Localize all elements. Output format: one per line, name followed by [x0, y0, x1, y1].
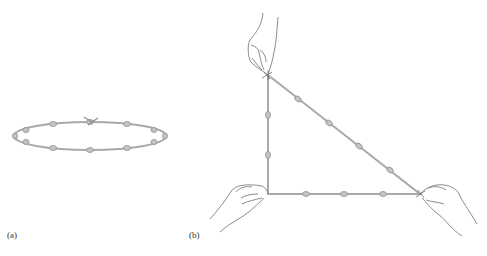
triangle-knots	[266, 95, 395, 197]
figure-canvas	[0, 0, 487, 256]
panel-label-a: (a)	[7, 230, 17, 240]
right-hand-icon	[416, 185, 477, 236]
rope-loop-ellipse	[13, 117, 168, 153]
loop-knots	[13, 120, 168, 153]
left-hand-icon	[210, 185, 268, 232]
panel-label-b: (b)	[189, 230, 200, 240]
rope-triangle	[266, 75, 421, 197]
top-hand-icon	[248, 13, 278, 80]
